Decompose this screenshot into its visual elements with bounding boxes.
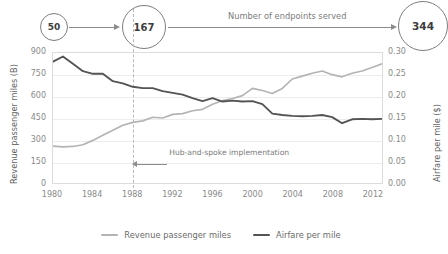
- flow-diagram-label: Number of endpoints served: [228, 11, 346, 21]
- x-axis-tick-label: 1984: [72, 190, 112, 199]
- y-axis-right-tick-label: 0.30: [388, 47, 428, 56]
- line-airfare-per-mile: [53, 56, 382, 123]
- chart-legend: Revenue passenger miles Airfare per mile: [0, 224, 442, 246]
- y-axis-left-title: Revenue passenger miles (B): [9, 64, 19, 184]
- flow-connector-2: [168, 27, 392, 28]
- endpoint-node-start-value: 50: [48, 22, 61, 32]
- y-axis-right-tick-label: 0.25: [388, 69, 428, 78]
- x-axis-tick-label: 1992: [152, 190, 192, 199]
- y-axis-left-tick-label: 900: [12, 47, 46, 56]
- legend-label: Airfare per mile: [276, 230, 341, 240]
- x-axis-tick-label: 1980: [32, 190, 72, 199]
- legend-item-revenue-passenger-miles: Revenue passenger miles: [101, 230, 231, 240]
- series-lines: [53, 53, 382, 183]
- y-axis-right-tick-label: 0.15: [388, 113, 428, 122]
- y-axis-right-tick-label: 0.00: [388, 179, 428, 188]
- x-axis-tick-label: 1996: [192, 190, 232, 199]
- x-axis-tick-label: 1988: [112, 190, 152, 199]
- flow-connector-1: [69, 27, 115, 28]
- x-axis-tick-label: 2012: [353, 190, 393, 199]
- legend-swatch: [101, 234, 118, 236]
- endpoint-node-middle: 167: [122, 5, 166, 49]
- y-axis-right-tick-label: 0.10: [388, 135, 428, 144]
- plot-area: Hub-and-spoke implementation: [52, 52, 383, 184]
- legend-item-airfare-per-mile: Airfare per mile: [253, 230, 341, 240]
- endpoint-node-middle-value: 167: [134, 22, 155, 33]
- endpoint-flow-diagram: 50 167 344 Number of endpoints served: [0, 0, 442, 48]
- y-axis-right-title: Airfare per mile ($): [432, 104, 442, 182]
- line-revenue-passenger-miles: [53, 64, 382, 147]
- x-axis-tick-label: 2000: [233, 190, 273, 199]
- arrow-right-icon: [391, 24, 397, 30]
- dual-axis-line-chart: 0150300450600750900 0.000.050.100.150.20…: [0, 44, 442, 212]
- y-axis-right-tick-label: 0.20: [388, 91, 428, 100]
- y-axis-right-tick-label: 0.05: [388, 157, 428, 166]
- endpoint-node-start: 50: [40, 13, 68, 41]
- endpoint-node-end-value: 344: [412, 20, 434, 32]
- legend-label: Revenue passenger miles: [124, 230, 231, 240]
- legend-swatch: [253, 234, 270, 236]
- x-axis-tick-label: 2004: [273, 190, 313, 199]
- x-axis-tick-label: 2008: [313, 190, 353, 199]
- arrow-right-icon: [114, 24, 120, 30]
